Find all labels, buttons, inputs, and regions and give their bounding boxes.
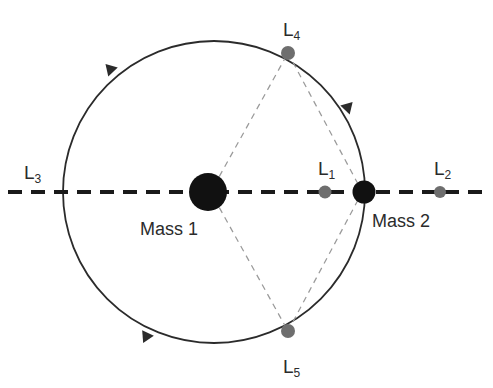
mass-2-marker[interactable] xyxy=(353,181,376,204)
label-l3: L3 xyxy=(24,162,42,186)
lagrange-point-l5[interactable] xyxy=(281,324,295,338)
connector-mass1-to-L5 xyxy=(214,198,288,331)
label-l2-base: L xyxy=(434,158,445,179)
arrow-upper-left-icon xyxy=(101,60,118,77)
arrow-lower-left-icon xyxy=(137,330,154,346)
lagrange-points-diagram: L1L2L3L4L5Mass 1Mass 2 xyxy=(0,0,493,388)
label-mass-2: Mass 2 xyxy=(372,211,430,231)
label-l3-base: L xyxy=(24,162,35,183)
label-mass-1: Mass 1 xyxy=(140,219,198,239)
label-l4-sub: 4 xyxy=(294,29,301,43)
label-l2-sub: 2 xyxy=(445,168,452,182)
mass-1-marker[interactable] xyxy=(189,173,227,211)
label-l1: L1 xyxy=(318,158,336,182)
label-l4-base: L xyxy=(283,19,294,40)
diagram-canvas: L1L2L3L4L5Mass 1Mass 2 xyxy=(0,0,493,388)
label-l2: L2 xyxy=(434,158,452,182)
connector-mass1-to-L4 xyxy=(214,53,288,186)
label-l1-base: L xyxy=(318,158,329,179)
lagrange-point-l4[interactable] xyxy=(281,46,295,60)
label-l1-sub: 1 xyxy=(329,168,336,182)
connector-mass2-to-L5 xyxy=(288,200,358,331)
lagrange-point-l2[interactable] xyxy=(434,186,446,198)
label-l3-sub: 3 xyxy=(35,172,42,186)
lagrange-point-l1[interactable] xyxy=(319,186,332,199)
label-l4: L4 xyxy=(283,19,301,43)
label-l5-base: L xyxy=(283,356,294,377)
diagram-labels: L1L2L3L4L5Mass 1Mass 2 xyxy=(24,19,452,380)
label-l5: L5 xyxy=(283,356,301,380)
orbit-direction-arrows xyxy=(101,60,358,346)
label-l5-sub: 5 xyxy=(294,366,301,380)
body-markers xyxy=(189,173,376,211)
